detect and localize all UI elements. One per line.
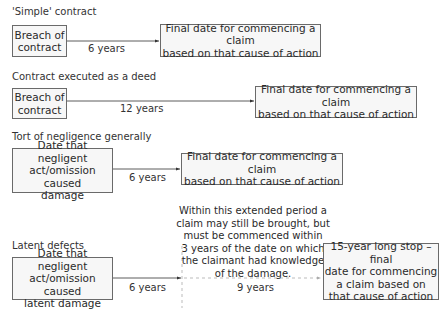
end-box-tort: Final date for commencing a claim based …	[181, 153, 343, 185]
box-text-line: based on that cause of action	[256, 108, 416, 121]
box-text-line: latent damage	[13, 297, 112, 310]
note-line: of the damage.	[172, 268, 334, 281]
box-text-line: Breach of	[14, 91, 64, 104]
box-text-line: Date that negligent	[13, 247, 112, 272]
box-text-line: damage	[13, 189, 112, 202]
box-text-line: contract	[14, 41, 64, 54]
note-line: the claimant had knowledge	[172, 255, 334, 268]
box-text-line: contract	[14, 104, 64, 117]
box-text-line: Final date for commencing a claim	[182, 150, 342, 175]
extended-duration-label: 9 years	[237, 282, 274, 294]
start-box-tort: Date that negligent act/omission caused …	[12, 148, 113, 193]
section-title-deed: Contract executed as a deed	[12, 71, 156, 83]
box-text-line: Date that negligent	[13, 139, 112, 164]
note-line: claim may still be brought, but	[172, 218, 334, 231]
box-text-line: Final date for commencing a claim	[161, 22, 320, 47]
end-box-simple-contract: Final date for commencing a claim based …	[160, 24, 321, 57]
box-text-line: a claim based on	[324, 278, 438, 291]
note-line: 3 years of the date on which	[172, 243, 334, 256]
box-text-line: act/omission caused	[13, 272, 112, 297]
box-text-line: that cause of action	[324, 290, 438, 303]
start-box-deed: Breach of contract	[12, 88, 67, 119]
duration-label-tort: 6 years	[129, 172, 166, 184]
box-text-line: act/omission caused	[13, 164, 112, 189]
duration-label-simple-contract: 6 years	[88, 43, 125, 55]
box-text-line: 15-year long stop – final	[324, 240, 438, 265]
box-text-line: Breach of	[14, 29, 64, 42]
duration-label-deed: 12 years	[120, 103, 163, 115]
start-box-simple-contract: Breach of contract	[12, 25, 67, 57]
duration-label-latent: 6 years	[129, 282, 166, 294]
box-text-line: Final date for commencing a claim	[256, 83, 416, 108]
end-box-long-stop: 15-year long stop – final date for comme…	[323, 243, 439, 300]
box-text-line: date for commencing	[324, 265, 438, 278]
section-title-simple-contract: 'Simple' contract	[12, 6, 96, 18]
note-line: Within this extended period a	[172, 205, 334, 218]
box-text-line: based on that cause of action	[161, 47, 320, 60]
start-box-latent: Date that negligent act/omission caused …	[12, 257, 113, 300]
box-text-line: based on that cause of action	[182, 175, 342, 188]
end-box-deed: Final date for commencing a claim based …	[255, 86, 417, 118]
extended-period-note: Within this extended period a claim may …	[172, 205, 334, 281]
note-line: must be commenced within	[172, 230, 334, 243]
